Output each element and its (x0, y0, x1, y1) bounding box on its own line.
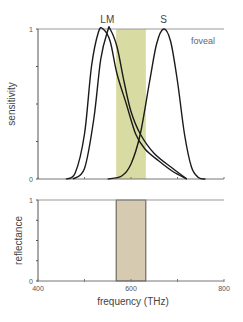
x-tick-label: 400 (32, 285, 44, 292)
x-axis-title: frequency (THz) (97, 296, 169, 307)
chart-figure: 01LMSfovealsensitivity01400600800reflect… (0, 0, 243, 322)
annotation-foveal: foveal (191, 36, 215, 46)
x-tick-label: 600 (125, 285, 137, 292)
reflectance-bar (116, 200, 146, 281)
y-tick-label-bottom: 1 (29, 197, 33, 204)
curve-label-S: S (160, 14, 167, 25)
highlight-band (116, 29, 146, 179)
x-tick-label: 800 (218, 285, 230, 292)
y-tick-label-top: 0 (29, 176, 33, 183)
curve-label-M: M (106, 14, 114, 25)
y-axis-title-bottom: reflectance (13, 216, 24, 265)
y-axis-title-top: sensitivity (6, 82, 17, 125)
y-tick-label-top: 1 (29, 26, 33, 33)
y-tick-label-bottom: 0 (29, 278, 33, 285)
